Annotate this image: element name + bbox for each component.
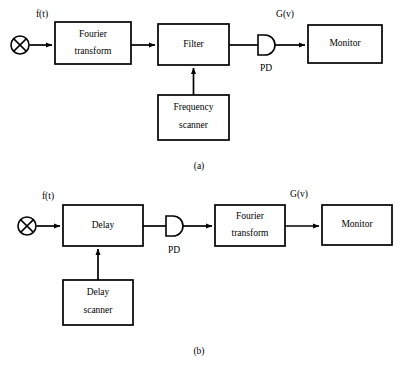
block-delay-scanner-b: Delay scanner: [63, 280, 133, 325]
block-label-fourier-line1: Fourier: [79, 29, 108, 39]
block-delay-b: Delay: [63, 205, 143, 246]
mixer-node-b: [18, 217, 36, 235]
diagram-canvas: f(t) G(v) Fourier transform Filter: [0, 0, 402, 365]
photodetector-b: PD: [166, 216, 183, 255]
output-signal-label-a: G(v): [276, 9, 294, 20]
block-label-delay: Delay: [92, 220, 115, 230]
block-label-filter: Filter: [183, 39, 204, 49]
photodetector-label-b: PD: [168, 245, 180, 255]
block-label-monitor-a: Monitor: [329, 38, 361, 48]
block-monitor-a: Monitor: [308, 25, 382, 63]
block-label-fourier-line2: transform: [75, 46, 113, 56]
block-monitor-b: Monitor: [322, 205, 392, 245]
block-label-monitor-b: Monitor: [341, 219, 373, 229]
block-fourier-transform-b: Fourier transform: [215, 205, 285, 246]
block-filter-a: Filter: [158, 24, 229, 65]
block-label-delay-scanner-line1: Delay: [87, 287, 110, 297]
output-signal-label-b: G(v): [290, 189, 308, 200]
photodetector-a: PD: [258, 35, 275, 73]
block-diagram-figure: f(t) G(v) Fourier transform Filter: [0, 0, 402, 365]
input-signal-label-b: f(t): [42, 191, 54, 202]
panel-a: f(t) G(v) Fourier transform Filter: [11, 9, 382, 172]
block-fourier-transform-a: Fourier transform: [55, 22, 131, 64]
panel-caption-a: (a): [194, 161, 205, 172]
mixer-node-a: [11, 36, 29, 54]
block-frequency-scanner-a: Frequency scanner: [158, 95, 229, 140]
block-label-fourier-b-line2: transform: [232, 228, 270, 238]
panel-b: f(t) G(v) Delay PD Fourier: [18, 189, 392, 357]
photodetector-label-a: PD: [260, 63, 272, 73]
block-label-frequency-scanner-line2: scanner: [179, 120, 209, 130]
block-label-delay-scanner-line2: scanner: [83, 305, 113, 315]
input-signal-label-a: f(t): [36, 9, 48, 20]
block-label-frequency-scanner-line1: Frequency: [173, 102, 213, 112]
panel-caption-b: (b): [193, 346, 204, 357]
block-label-fourier-b-line1: Fourier: [236, 211, 265, 221]
